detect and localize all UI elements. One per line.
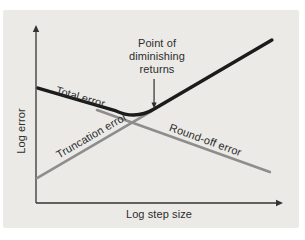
x-axis-label: Log step size xyxy=(126,208,192,220)
figure: Log error Log step size Point of diminis… xyxy=(0,0,305,240)
annotation-arrow xyxy=(151,79,156,109)
y-axis-label: Log error xyxy=(15,108,27,154)
chart-canvas xyxy=(0,0,305,240)
annotation-text: Point of diminishing returns xyxy=(129,37,185,76)
